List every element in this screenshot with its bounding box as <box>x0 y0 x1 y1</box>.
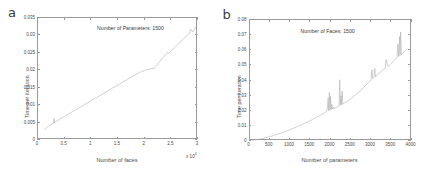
x-tick-mark <box>370 19 371 22</box>
panel-a-x-exponent-base: x 10 <box>186 154 195 159</box>
x-tick-mark <box>249 19 250 22</box>
y-tick-mark <box>37 87 40 88</box>
y-tick-label: 0.03 <box>215 92 247 97</box>
y-tick-mark <box>249 140 252 141</box>
y-tick-mark <box>195 104 198 105</box>
x-tick-label: 500 <box>265 142 273 147</box>
x-tick-label: 2500 <box>345 142 355 147</box>
panel-a-x-exponent-power: 4 <box>195 152 197 156</box>
panel-a-axes <box>37 17 197 139</box>
x-tick-label: 3500 <box>385 142 395 147</box>
y-tick-mark <box>408 95 411 96</box>
y-tick-mark <box>408 125 411 126</box>
panel-a-annotation: Number of Parameters: 1500 <box>97 25 164 31</box>
y-tick-mark <box>249 64 252 65</box>
data-series-line <box>44 25 197 130</box>
x-tick-mark <box>37 17 38 20</box>
y-tick-mark <box>37 104 40 105</box>
y-tick-mark <box>249 80 252 81</box>
y-tick-mark <box>408 34 411 35</box>
y-tick-mark <box>37 34 40 35</box>
panel-a-ylabel: Time per iteration <box>24 75 30 118</box>
panel-b: b Time per iteration Number of parameter… <box>215 0 429 176</box>
y-tick-mark <box>37 139 40 140</box>
y-tick-label: 0.03 <box>0 32 35 37</box>
y-tick-mark <box>249 95 252 96</box>
data-series-line <box>252 32 406 140</box>
x-tick-mark <box>330 19 331 22</box>
y-tick-mark <box>37 122 40 123</box>
x-tick-label: 1.5 <box>114 141 120 146</box>
y-tick-label: 0.07 <box>215 32 247 37</box>
y-tick-label: 0.08 <box>215 17 247 22</box>
x-tick-mark <box>370 138 371 141</box>
x-tick-label: 1000 <box>284 142 294 147</box>
x-tick-mark <box>144 17 145 20</box>
y-tick-mark <box>37 52 40 53</box>
x-tick-mark <box>309 19 310 22</box>
x-tick-mark <box>144 137 145 140</box>
y-tick-label: 0.02 <box>215 107 247 112</box>
y-tick-mark <box>249 34 252 35</box>
y-tick-mark <box>408 110 411 111</box>
x-tick-label: 0 <box>247 142 250 147</box>
x-tick-mark <box>170 17 171 20</box>
x-tick-mark <box>170 137 171 140</box>
y-tick-label: 0.05 <box>215 62 247 67</box>
x-tick-mark <box>117 137 118 140</box>
x-tick-mark <box>90 137 91 140</box>
x-tick-mark <box>350 138 351 141</box>
panel-b-xlabel: Number of parameters <box>249 157 411 163</box>
panel-a-xlabel: Number of faces <box>37 157 197 163</box>
y-tick-mark <box>408 49 411 50</box>
y-tick-label: 0.035 <box>0 15 35 20</box>
panel-a-x-exponent: x 104 <box>186 152 197 159</box>
y-tick-mark <box>408 64 411 65</box>
x-tick-label: 0.5 <box>61 141 67 146</box>
y-tick-mark <box>195 34 198 35</box>
y-tick-mark <box>408 140 411 141</box>
panel-b-curve <box>250 20 412 141</box>
y-tick-mark <box>195 69 198 70</box>
x-tick-mark <box>309 138 310 141</box>
y-tick-label: 0 <box>215 138 247 143</box>
x-tick-label: 2.5 <box>167 141 173 146</box>
x-tick-label: 2 <box>142 141 145 146</box>
x-tick-label: 3000 <box>365 142 375 147</box>
x-tick-label: 3 <box>196 141 199 146</box>
y-tick-mark <box>195 139 198 140</box>
x-tick-label: 1 <box>89 141 92 146</box>
y-tick-mark <box>249 110 252 111</box>
y-tick-label: 0.01 <box>215 122 247 127</box>
x-tick-mark <box>64 137 65 140</box>
x-tick-mark <box>350 19 351 22</box>
x-tick-mark <box>289 19 290 22</box>
y-tick-mark <box>37 69 40 70</box>
x-tick-mark <box>249 138 250 141</box>
y-tick-mark <box>249 49 252 50</box>
y-tick-mark <box>195 87 198 88</box>
x-tick-label: 4000 <box>405 142 415 147</box>
panel-a-curve <box>38 18 198 140</box>
y-tick-mark <box>195 52 198 53</box>
y-tick-label: 0.01 <box>0 102 35 107</box>
x-tick-mark <box>289 138 290 141</box>
x-tick-mark <box>269 138 270 141</box>
y-tick-label: 0.015 <box>0 84 35 89</box>
panel-b-annotation: Number of Faces: 1500 <box>301 28 355 34</box>
panel-a: a Time per iteration Number of faces Num… <box>0 0 215 176</box>
x-tick-label: 0 <box>36 141 39 146</box>
x-tick-mark <box>64 17 65 20</box>
y-tick-label: 0.02 <box>0 67 35 72</box>
y-tick-label: 0.06 <box>215 47 247 52</box>
x-tick-mark <box>37 137 38 140</box>
figure-container: a Time per iteration Number of faces Num… <box>0 0 429 176</box>
x-tick-mark <box>269 19 270 22</box>
x-tick-mark <box>411 19 412 22</box>
x-tick-mark <box>330 138 331 141</box>
y-tick-label: 0.025 <box>0 49 35 54</box>
panel-b-axes <box>249 19 411 140</box>
y-tick-mark <box>408 80 411 81</box>
x-tick-mark <box>90 17 91 20</box>
y-tick-mark <box>249 125 252 126</box>
